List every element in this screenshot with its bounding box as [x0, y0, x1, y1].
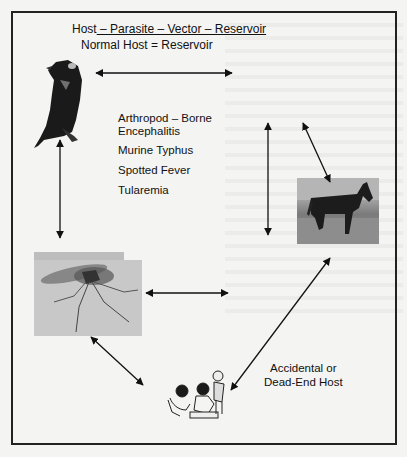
children-illustration: [168, 371, 224, 418]
bird-illustration: [34, 60, 82, 148]
diagram-graphics: [0, 0, 407, 457]
arrow-to-horse: [303, 123, 330, 182]
arrow-horse-humans: [231, 258, 330, 390]
arrow-mosquito-humans: [91, 337, 143, 385]
